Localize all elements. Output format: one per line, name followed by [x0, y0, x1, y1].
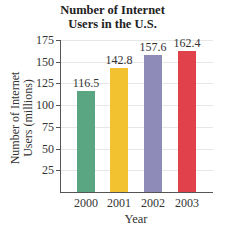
- y-tick-label: 25: [20, 164, 54, 176]
- y-tick-label: 50: [20, 143, 54, 155]
- x-tick-label: 2003: [167, 197, 207, 209]
- y-tick: [56, 62, 60, 63]
- y-axis: [60, 40, 61, 192]
- x-axis: [60, 192, 213, 193]
- y-tick-label: 175: [20, 34, 54, 46]
- x-axis-label: Year: [106, 212, 166, 227]
- title-line-2: Users in the U.S.: [0, 17, 225, 31]
- chart-title: Number of Internet Users in the U.S.: [0, 3, 225, 31]
- bar-2003: [178, 51, 196, 192]
- y-tick: [56, 149, 60, 150]
- y-tick: [56, 170, 60, 171]
- y-tick-label: 125: [20, 77, 54, 89]
- y-tick-label: 100: [20, 99, 54, 111]
- ylabel-line-2: Users (millions): [22, 58, 35, 178]
- y-tick: [56, 105, 60, 106]
- bar-value-label: 116.5: [66, 77, 106, 89]
- bar-2001: [110, 68, 128, 192]
- y-tick: [56, 83, 60, 84]
- y-tick: [56, 127, 60, 128]
- bar-value-label: 142.8: [99, 54, 139, 66]
- bar-value-label: 162.4: [167, 37, 207, 49]
- title-line-1: Number of Internet: [0, 3, 225, 17]
- y-axis-label: Number of Internet Users (millions): [9, 58, 35, 178]
- bar-2000: [77, 91, 95, 192]
- bar-2002: [144, 55, 162, 192]
- y-tick: [56, 40, 60, 41]
- y-tick-label: 150: [20, 56, 54, 68]
- y-tick-label: 75: [20, 121, 54, 133]
